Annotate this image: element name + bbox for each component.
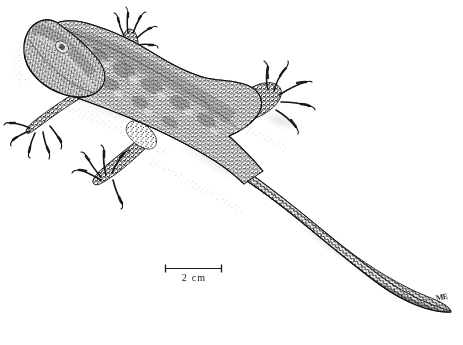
lizard-drawing	[0, 0, 463, 345]
lizard-illustration-figure: 2 cm ME	[0, 0, 463, 345]
scale-bar-label: 2 cm	[165, 272, 223, 283]
